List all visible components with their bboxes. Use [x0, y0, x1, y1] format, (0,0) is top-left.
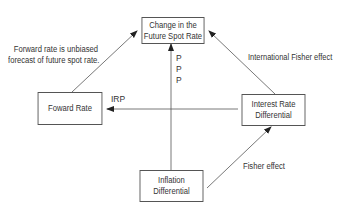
- node-inflation-differential: Inflation Differential: [140, 170, 204, 202]
- edge-label-fisher-effect: Fisher effect: [243, 161, 285, 172]
- edge-label-ppp-3: P: [176, 75, 182, 86]
- edge-label-irp: IRP: [111, 94, 125, 105]
- node-forward-label: Foward Rate: [48, 103, 92, 114]
- edge-label-ppp: P P P: [176, 53, 182, 86]
- node-spot-line2: Future Spot Rate: [144, 31, 202, 42]
- edge-label-forward-unbiased: Forward rate is unbiased forecast of fut…: [8, 44, 99, 66]
- node-interest-line1: Interest Rate: [252, 99, 296, 110]
- edge-label-forward-line2: forecast of future spot rate.: [8, 55, 99, 66]
- edge-label-forward-line1: Forward rate is unbiased: [8, 44, 99, 55]
- edge-label-international-fisher: International Fisher effect: [248, 52, 332, 63]
- node-inflation-line2: Differential: [153, 186, 189, 197]
- edge-label-ppp-1: P: [176, 53, 182, 64]
- node-inflation-line1: Inflation: [153, 175, 189, 186]
- node-interest-line2: Differential: [252, 110, 296, 121]
- node-spot-line1: Change in the: [144, 20, 202, 31]
- node-forward-rate: Foward Rate: [38, 92, 103, 125]
- edge-label-ppp-2: P: [176, 64, 182, 75]
- node-future-spot-rate: Change in the Future Spot Rate: [142, 17, 205, 44]
- arrow-inflation-to-interest: [207, 127, 271, 188]
- node-interest-rate-differential: Interest Rate Differential: [242, 94, 306, 126]
